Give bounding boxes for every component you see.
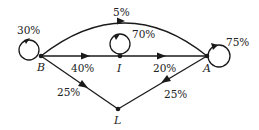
edge-B-A: 5% (41, 6, 207, 56)
svg-text:B: B (36, 61, 45, 74)
arrow-icon (211, 43, 218, 50)
svg-text:I: I (116, 62, 122, 75)
edge-label-B-B: 30% (17, 24, 40, 36)
edge-label-A-L: 25% (164, 88, 187, 100)
arrow-icon (161, 75, 171, 83)
edge-label-A-A: 75% (226, 36, 249, 48)
edge-A-A: 75% (208, 36, 249, 67)
edge-label-I-A: 20% (153, 62, 176, 74)
svg-text:A: A (202, 62, 211, 75)
node-I: I (116, 54, 122, 75)
svg-text:L: L (113, 114, 121, 127)
edge-label-I-I: 70% (132, 28, 155, 40)
edge-label-B-A: 5% (113, 6, 130, 18)
arrow-icon (24, 38, 30, 44)
edge-label-B-L: 25% (57, 86, 80, 98)
node-A: A (202, 54, 211, 75)
arrow-icon (157, 53, 166, 60)
arrow-icon (81, 53, 90, 60)
edge-B-I: 40% (41, 53, 120, 75)
edge-B-B: 30% (17, 24, 40, 60)
transition-diagram: 30% 5% 40% 70% 20% 75% 25% 25% (0, 0, 259, 130)
edge-label-B-I: 40% (71, 62, 94, 74)
edge-I-I: 70% (110, 28, 155, 54)
node-B: B (36, 54, 45, 74)
node-L: L (113, 107, 121, 127)
